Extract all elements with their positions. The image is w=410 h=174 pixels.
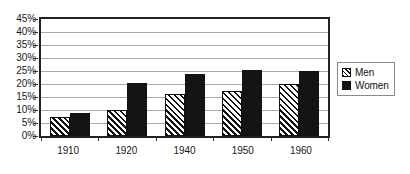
bar-women-1940[interactable] — [185, 74, 205, 136]
y-axis-tick-label: 25% — [0, 66, 36, 76]
y-axis-tick-label: 15% — [0, 92, 36, 102]
y-axis-tick-mark — [33, 58, 38, 59]
legend-item-women: Women — [342, 79, 389, 92]
x-axis-ticks — [39, 137, 330, 142]
x-axis-tick-mark — [213, 137, 214, 141]
legend-swatch-men-icon — [342, 68, 351, 77]
bar-women-1950[interactable] — [242, 70, 262, 136]
x-axis-tick-mark — [98, 137, 99, 141]
plot-area — [39, 17, 330, 138]
x-axis-tick-mark — [271, 137, 272, 141]
y-axis-tick-mark — [33, 71, 38, 72]
y-axis-tick-mark — [33, 136, 38, 137]
x-axis-tick-mark — [156, 137, 157, 141]
y-axis-tick-label: 45% — [0, 14, 36, 24]
bar-men-1910[interactable] — [50, 117, 70, 137]
bar-group — [98, 19, 155, 136]
y-axis-tick-label: 30% — [0, 53, 36, 63]
bar-group — [213, 19, 270, 136]
legend-swatch-women-icon — [342, 81, 351, 90]
y-axis-tick-label: 10% — [0, 105, 36, 115]
y-axis-tick-mark — [33, 19, 38, 20]
x-axis-labels: 19101920194019501960 — [39, 145, 330, 163]
bar-men-1940[interactable] — [165, 94, 185, 136]
y-axis-tick-label: 40% — [0, 27, 36, 37]
x-axis-tick-mark — [41, 137, 42, 141]
legend-item-men: Men — [342, 66, 389, 79]
y-axis-tick-mark — [33, 123, 38, 124]
bar-group — [156, 19, 213, 136]
y-axis-tick-mark — [33, 110, 38, 111]
x-axis-tick-label: 1910 — [39, 145, 97, 163]
y-axis-tick-label: 5% — [0, 118, 36, 128]
x-axis-tick-mark — [328, 137, 329, 141]
y-axis-tick-label: 35% — [0, 40, 36, 50]
bar-men-1960[interactable] — [279, 84, 299, 136]
bar-women-1960[interactable] — [299, 71, 319, 136]
x-axis-tick-label: 1940 — [155, 145, 213, 163]
chart-legend: Men Women — [337, 62, 395, 96]
y-axis-tick-mark — [33, 45, 38, 46]
bar-chart: 0%5%10%15%20%25%30%35%40%45% 19101920194… — [0, 0, 410, 174]
y-axis-labels: 0%5%10%15%20%25%30%35%40%45% — [0, 0, 36, 174]
y-axis-tick-mark — [33, 97, 38, 98]
legend-label-women: Women — [355, 80, 389, 91]
y-axis-tick-label: 20% — [0, 79, 36, 89]
bar-groups — [41, 19, 328, 136]
bar-group — [41, 19, 98, 136]
bar-group — [271, 19, 328, 136]
x-axis-tick-label: 1960 — [272, 145, 330, 163]
legend-label-men: Men — [355, 67, 374, 78]
y-axis-tick-mark — [33, 32, 38, 33]
x-axis-tick-label: 1920 — [97, 145, 155, 163]
y-axis-tick-label: 0% — [0, 131, 36, 141]
bar-women-1920[interactable] — [127, 83, 147, 136]
bar-women-1910[interactable] — [70, 113, 90, 136]
bar-men-1920[interactable] — [107, 110, 127, 136]
bar-men-1950[interactable] — [222, 91, 242, 137]
y-axis-tick-mark — [33, 84, 38, 85]
x-axis-tick-label: 1950 — [214, 145, 272, 163]
